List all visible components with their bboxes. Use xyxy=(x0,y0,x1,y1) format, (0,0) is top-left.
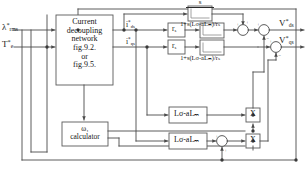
dot-omega-upper xyxy=(251,129,254,132)
multiplier-upper-label: X xyxy=(250,110,256,118)
svg-text:+: + xyxy=(216,134,219,139)
rs-block-q xyxy=(168,40,185,54)
L-upper-text: Lσ-aLₘ xyxy=(174,109,199,118)
vqs-label: V*qs xyxy=(279,35,294,46)
L-block-upper-label: Lσ-aLₘ xyxy=(174,110,199,118)
summing-signs: + + + − + − + + xyxy=(216,20,282,153)
vds-subscript: ds xyxy=(289,22,294,28)
torque-subscript: e xyxy=(11,43,13,49)
iqs-subscript: qs xyxy=(131,41,135,46)
dot-bottom-tap xyxy=(220,158,223,161)
dot-torque-tap xyxy=(45,45,48,48)
tf-top-numerator: s xyxy=(186,0,214,6)
dot-iqs-tap xyxy=(145,45,148,48)
tf-top-denominator-wrap: 1+s(Lσ-aLₘ)/rₛ xyxy=(152,21,248,28)
ids-subscript: ds xyxy=(131,24,135,29)
rs-q-subscript: s xyxy=(175,45,177,50)
svg-text:+: + xyxy=(257,22,260,27)
dot-right-bottom xyxy=(294,158,297,161)
multiplier-upper-text: X xyxy=(250,109,256,118)
omega-calculator-label: ω₁ calculator xyxy=(62,125,108,141)
multiplier-lower-label: X xyxy=(250,136,256,144)
rs-block-q-label: rs xyxy=(172,42,176,51)
L-block-lower-label: Lσ-aLₘ xyxy=(174,136,199,144)
svg-text:+: + xyxy=(270,39,273,44)
tf-top-numerator-wrap: s xyxy=(186,0,214,8)
summing-junction-2 xyxy=(259,25,270,36)
multiplier-lower-text: X xyxy=(250,135,256,144)
summing-junction-4 xyxy=(217,136,228,147)
decoupling-network-label: Current decoupling network fig.9.2. or f… xyxy=(56,18,113,70)
iqs-label: i*qs xyxy=(126,37,135,46)
tf-top-fraction-bar xyxy=(186,7,214,8)
ids-label: i*ds xyxy=(126,20,135,29)
tf-q-denominator-wrap: 1+s(Lσ-aLₘ)/rₛ xyxy=(152,55,248,62)
decoupling-line-6: fig.9.5. xyxy=(56,61,113,70)
torque-reference-label: T*e xyxy=(2,39,13,50)
omega-line-2: calculator xyxy=(62,133,108,141)
rs-d-subscript: s xyxy=(175,28,177,33)
svg-text:−: − xyxy=(279,53,282,58)
tf-q-denominator: 1+s(Lσ-aLₘ)/rₛ xyxy=(152,55,248,62)
svg-text:+: + xyxy=(225,148,228,153)
flux-subscript: rms xyxy=(10,26,18,32)
flux-reference-label: λ*rms xyxy=(2,22,18,33)
vqs-subscript: qs xyxy=(289,39,294,45)
tf-top-denominator: 1+s(Lσ-aLₘ)/rₛ xyxy=(152,21,248,28)
L-lower-text: Lσ-aLₘ xyxy=(174,135,199,144)
tf-block-q xyxy=(200,40,224,55)
vds-label: V*ds xyxy=(279,18,294,29)
